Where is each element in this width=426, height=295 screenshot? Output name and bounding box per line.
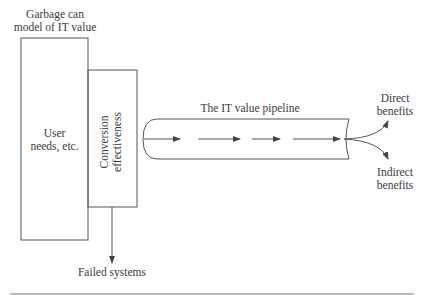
failed-systems-label: Failed systems bbox=[72, 266, 152, 279]
pipeline-label: The IT value pipeline bbox=[190, 102, 310, 115]
pipeline bbox=[143, 119, 349, 159]
direct-benefits-label: Direct benefits bbox=[370, 92, 420, 118]
garbage-can-title: Garbage can model of IT value bbox=[10, 8, 100, 34]
conversion-effectiveness-label: Conversion effectiveness bbox=[98, 92, 126, 192]
direct-line1: Direct bbox=[370, 92, 420, 105]
conversion-line1: Conversion bbox=[98, 92, 111, 192]
direct-benefits-arrow bbox=[344, 121, 388, 139]
title-line1: Garbage can bbox=[10, 8, 100, 21]
indirect-line2: benefits bbox=[370, 179, 420, 192]
direct-line2: benefits bbox=[370, 105, 420, 118]
indirect-line1: Indirect bbox=[370, 166, 420, 179]
user-needs-label: User needs, etc. bbox=[21, 127, 88, 153]
user-line1: User bbox=[21, 127, 88, 140]
conversion-line2: effectiveness bbox=[111, 92, 124, 192]
indirect-benefits-arrow bbox=[344, 139, 388, 159]
user-line2: needs, etc. bbox=[21, 140, 88, 153]
title-line2: model of IT value bbox=[10, 21, 100, 34]
indirect-benefits-label: Indirect benefits bbox=[370, 166, 420, 192]
